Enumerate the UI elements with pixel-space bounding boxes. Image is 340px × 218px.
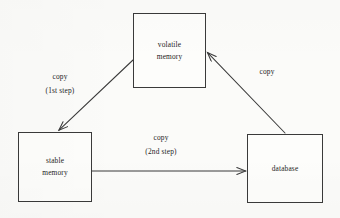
- edge-label-copy-1st-step-line2: (1st step): [36, 87, 84, 94]
- edge-label-copy-1st-step: copy (1st step): [36, 73, 84, 94]
- node-database-line1: database: [272, 163, 299, 175]
- edge-label-copy-2nd-step: copy (2nd step): [133, 134, 189, 155]
- edge-label-copy-2nd-step-line1: copy: [133, 134, 189, 141]
- edge-database-to-volatile: [208, 53, 285, 133]
- node-database[interactable]: database: [247, 134, 323, 203]
- edge-label-copy-right: copy: [254, 68, 280, 75]
- diagram-canvas: volatile memory stable memory database c…: [0, 0, 340, 218]
- node-volatile-memory[interactable]: volatile memory: [133, 13, 206, 88]
- node-stable-memory-line2: memory: [42, 167, 68, 179]
- edge-label-copy-2nd-step-line2: (2nd step): [133, 148, 189, 155]
- node-volatile-memory-line1: volatile: [158, 39, 181, 51]
- node-stable-memory-line1: stable: [46, 155, 64, 167]
- edge-line-database-to-volatile: [208, 53, 285, 133]
- node-stable-memory[interactable]: stable memory: [18, 132, 92, 202]
- edge-label-copy-right-line1: copy: [254, 68, 280, 75]
- edge-volatile-to-stable: [59, 60, 133, 130]
- edge-label-copy-1st-step-line1: copy: [36, 73, 84, 80]
- node-volatile-memory-line2: memory: [157, 51, 183, 63]
- edge-line-volatile-to-stable: [59, 60, 133, 130]
